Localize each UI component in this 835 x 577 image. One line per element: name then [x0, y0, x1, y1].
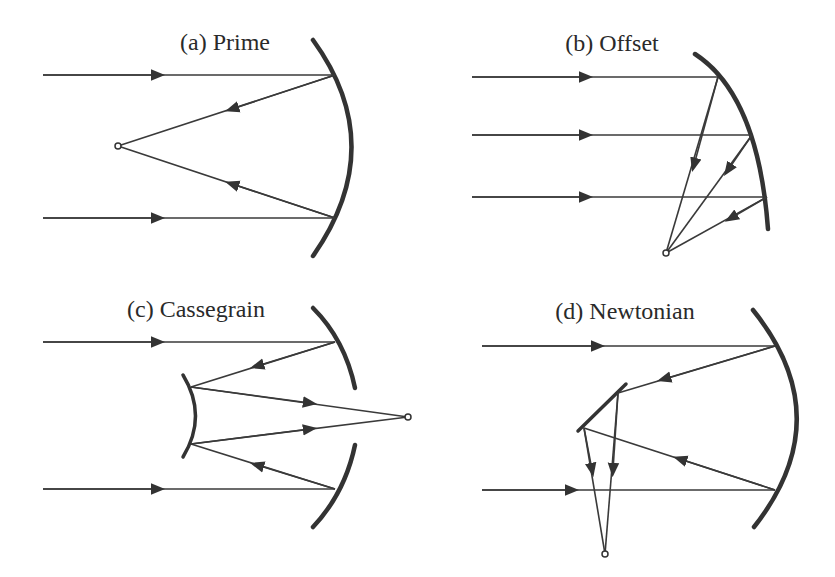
ray-arrow	[191, 429, 310, 444]
ray-arrow	[664, 346, 775, 379]
panel-label-newtonian: (d) Newtonian	[555, 298, 694, 324]
panel-label-cassegrain: (c) Cassegrain	[127, 296, 265, 322]
ray-arrow	[613, 393, 618, 470]
panel-label-prime: (a) Prime	[180, 29, 270, 55]
focal-point	[602, 551, 608, 557]
telescope-configurations-diagram: (a) Prime (b) Offset (c) Cassegr	[0, 0, 835, 577]
primary-mirror-lower	[313, 445, 355, 527]
ray-arrow	[731, 197, 767, 218]
ray-arrow	[680, 459, 775, 490]
focal-point	[663, 250, 669, 256]
ray-arrow	[728, 135, 752, 170]
focal-point	[405, 414, 411, 420]
ray-arrow	[694, 77, 718, 165]
ray-arrow	[257, 465, 335, 489]
primary-mirror	[313, 40, 352, 256]
panel-newtonian: (d) Newtonian	[482, 298, 797, 557]
panel-offset: (b) Offset	[472, 30, 768, 256]
primary-mirror-upper	[313, 308, 355, 388]
diagonal-mirror	[578, 384, 626, 431]
panel-cassegrain: (c) Cassegrain	[43, 296, 411, 527]
primary-mirror	[753, 310, 797, 527]
ray-arrow	[257, 342, 335, 366]
ray-arrow	[191, 387, 310, 403]
panel-prime: (a) Prime	[43, 29, 352, 256]
focal-point	[115, 143, 121, 149]
ray-arrow	[584, 428, 592, 470]
ray-arrow	[232, 75, 335, 109]
panel-label-offset: (b) Offset	[565, 30, 659, 56]
ray-arrow	[232, 184, 335, 218]
